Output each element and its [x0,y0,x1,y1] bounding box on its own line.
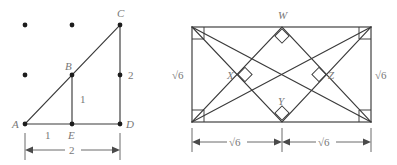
right-angle-marker-y [275,106,289,120]
point-label-w: W [278,9,288,21]
geometry-figure-sheet: A B C D E 1 1 2 2 [0,0,397,165]
lattice-dot [23,73,28,78]
length-label-be: 1 [80,93,86,105]
dimension-label-base: 2 [69,144,75,156]
vertex-dot-b [70,73,75,78]
side-label-left: √6 [172,69,184,81]
vertex-dot-c [118,23,123,28]
length-label-dc: 2 [128,69,134,81]
point-label-d: D [125,118,134,130]
point-label-c: C [117,7,125,19]
dimension-arrow-br-start [282,139,290,146]
point-label-e: E [67,129,75,141]
dimension-label-bottom-right: √6 [318,136,330,148]
point-label-x: X [226,69,235,81]
dimension-arrow-br-end [363,139,371,146]
length-label-ae: 1 [45,129,51,141]
vertex-dot-a [23,122,28,127]
left-figure-lattice-triangle: A B C D E 1 1 2 2 [0,0,170,165]
lattice-dot [23,23,28,28]
side-label-right: √6 [375,69,387,81]
lattice-dot-midpoint-dc [118,73,123,78]
right-angle-marker-z [312,67,326,81]
lattice-dot [70,23,75,28]
dimension-label-bottom-left: √6 [229,136,241,148]
point-label-y: Y [278,95,286,107]
vertex-dot-e [70,122,75,127]
dimension-arrow-left [25,147,33,154]
vertex-dot-d [118,122,123,127]
dimension-arrow-right [112,147,120,154]
dimension-arrow-bl-end [274,139,282,146]
point-label-z: Z [328,69,335,81]
right-figure-rectangle: W X Y Z √6 √6 √6 √6 [170,0,397,165]
right-angle-marker-x [238,67,252,81]
point-label-b: B [65,60,72,72]
point-label-a: A [11,118,19,130]
dimension-arrow-bl-start [192,139,200,146]
right-angle-marker-w [275,29,289,43]
